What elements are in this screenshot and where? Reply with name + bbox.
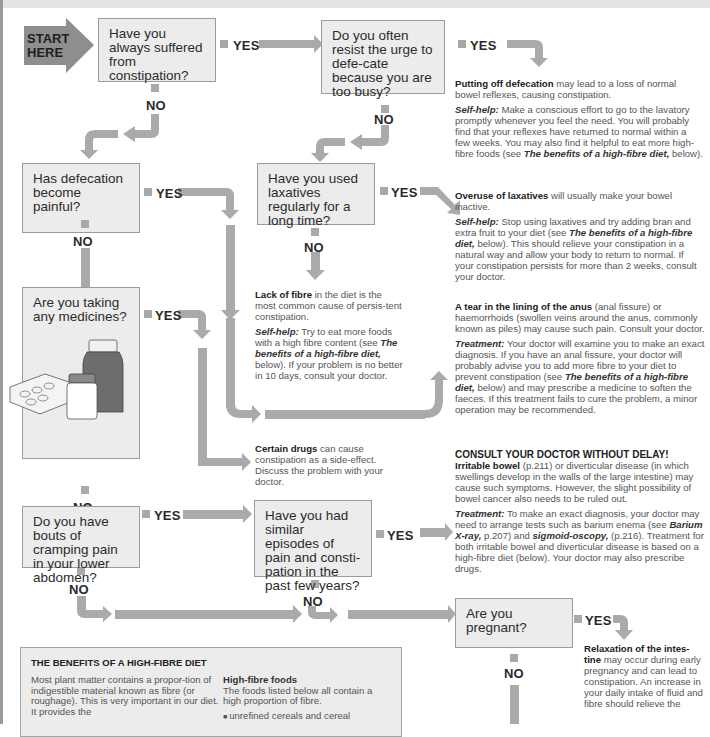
no-label: NO — [303, 594, 323, 609]
outcome-putting-off: Putting off defecation may lead to a los… — [455, 78, 703, 163]
outcome-certain-drugs: Certain drugs can cause constipation as … — [255, 443, 405, 491]
outcome-relaxation: Relaxation of the intes-tine may occur d… — [584, 643, 706, 713]
no-label: NO — [146, 98, 166, 113]
yes-label: YES — [156, 186, 183, 201]
yes-label: YES — [155, 308, 182, 323]
food-list: unrefined cereals and cereal — [223, 711, 393, 723]
question-cramping-pain: Do you have bouts of cramping pain in yo… — [22, 506, 140, 568]
panel-left-text: Most plant matter contains a propor-tion… — [31, 675, 221, 717]
yes-marker — [144, 310, 152, 318]
yes-marker — [144, 188, 152, 196]
question-similar-episodes: Have you had similar episodes of pain an… — [254, 500, 372, 577]
no-label: NO — [69, 582, 89, 597]
yes-marker — [380, 187, 388, 195]
no-marker — [81, 220, 89, 228]
no-label: NO — [374, 112, 394, 127]
outcome-lack-of-fibre: Lack of fibre in the diet is the most co… — [255, 289, 405, 385]
panel-right-column: High-fibre foods The foods listed below … — [223, 675, 393, 722]
question-resist-urge: Do you often resist the urge to defe-cat… — [321, 20, 445, 94]
outcome-anal-tear: A tear in the lining of the anus (anal f… — [455, 301, 705, 419]
yes-label: YES — [391, 185, 418, 200]
outcome-overuse-laxatives: Overuse of laxatives will usually make y… — [455, 190, 703, 286]
yes-marker — [458, 40, 466, 48]
yes-label: YES — [233, 38, 260, 53]
high-fibre-foods-heading: High-fibre foods — [223, 675, 393, 686]
yes-label: YES — [585, 613, 612, 628]
question-medicines: Are you taking any medicines? — [22, 287, 140, 459]
yes-label: YES — [387, 528, 414, 543]
no-label: NO — [304, 240, 324, 255]
no-label: NO — [504, 666, 524, 681]
question-pregnant: Are you pregnant? — [455, 598, 573, 648]
yes-label: YES — [154, 508, 181, 523]
list-item: unrefined cereals and cereal — [223, 711, 393, 723]
start-label: START HERE — [27, 32, 69, 60]
question-always-suffered: Have you always suffered from constipati… — [98, 18, 216, 82]
yes-label: YES — [470, 38, 497, 53]
panel-title: THE BENEFITS OF A HIGH-FIBRE DIET — [31, 657, 207, 668]
outcome-consult-doctor: CONSULT YOUR DOCTOR WITHOUT DELAY! Irrit… — [455, 449, 705, 578]
question-laxatives: Have you used laxatives regularly for a … — [257, 163, 375, 225]
high-fibre-diet-panel: THE BENEFITS OF A HIGH-FIBRE DIET Most p… — [20, 647, 402, 737]
medicine-bottles-illustration — [5, 332, 135, 422]
no-label: NO — [73, 234, 93, 249]
yes-marker — [220, 40, 228, 48]
